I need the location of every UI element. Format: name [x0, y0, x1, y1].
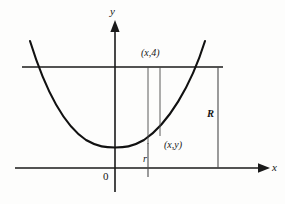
x-axis-arrowhead: [258, 163, 270, 173]
y-axis-label: y: [110, 6, 115, 17]
x-axis-label: x: [272, 162, 277, 173]
diagram-svg: [0, 0, 285, 204]
figure-canvas: y x 0 (x,4) (x,y) R r: [0, 0, 285, 204]
parabola-curve: [30, 41, 205, 148]
y-axis-arrowhead: [110, 20, 119, 32]
x-axis: [15, 163, 270, 173]
radius-r-label: r: [143, 154, 147, 164]
radius-R-label: R: [207, 109, 214, 120]
origin-label: 0: [103, 171, 109, 182]
point-x4-label: (x,4): [141, 48, 160, 58]
y-axis: [110, 20, 119, 192]
point-xy-label: (x,y): [164, 140, 182, 150]
